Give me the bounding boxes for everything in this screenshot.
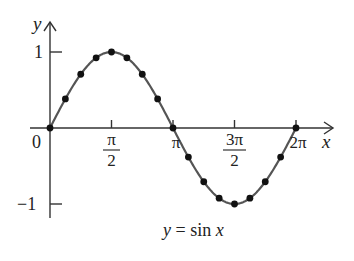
data-point-marker <box>293 125 300 132</box>
data-point-marker <box>246 195 253 202</box>
y-tick-label-1: 1 <box>34 42 43 62</box>
axes <box>30 22 333 218</box>
data-point-marker <box>200 178 207 185</box>
y-tick-label-neg1: −1 <box>17 194 36 214</box>
x-axis-label: x <box>321 131 331 152</box>
data-point-marker <box>62 95 69 102</box>
data-point-marker <box>216 195 223 202</box>
x-tick-label-3pi-half-num: 3π <box>226 130 244 149</box>
data-point-marker <box>154 95 161 102</box>
data-point-marker <box>139 71 146 78</box>
x-tick-label-2pi: 2π <box>289 133 307 152</box>
data-point-marker <box>77 71 84 78</box>
caption-y: y <box>161 220 171 240</box>
x-tick-label-pi-half-num: π <box>107 130 116 149</box>
data-point-marker <box>170 125 177 132</box>
data-point-marker <box>277 154 284 161</box>
caption-eq: = sin <box>171 220 216 240</box>
y-axis-label: y <box>31 13 42 34</box>
caption-x: x <box>215 220 224 240</box>
data-point-marker <box>185 154 192 161</box>
data-point-marker <box>262 178 269 185</box>
sine-graph: y x 1 −1 0 π 2 π 3π 2 2π y = sin x <box>0 0 354 261</box>
data-point-marker <box>108 49 115 56</box>
x-tick-label-3pi-half-den: 2 <box>230 151 239 170</box>
data-point-marker <box>93 54 100 61</box>
data-point-marker <box>47 125 54 132</box>
x-tick-label-pi: π <box>172 133 181 152</box>
x-tick-label-pi-half-den: 2 <box>107 151 116 170</box>
data-point-marker <box>123 54 130 61</box>
data-point-marker <box>231 201 238 208</box>
x-tick-label-0: 0 <box>32 132 41 152</box>
chart-caption: y = sin x <box>161 220 224 240</box>
